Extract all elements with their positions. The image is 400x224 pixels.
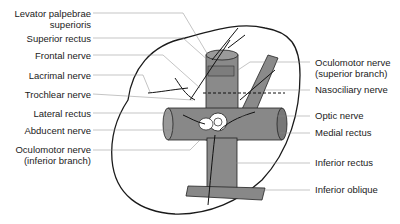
label-text: Optic nerve [315,110,364,121]
label-optic-nerve: Optic nerve [315,110,364,121]
label-superior-rectus: Superior rectus [27,33,91,44]
label-inferior-rectus: Inferior rectus [315,157,373,168]
label-nasociliary-nerve: Nasociliary nerve [315,84,388,95]
label-text: Lateral rectus [33,108,91,119]
label-line: Oculomotor nerve [315,57,391,68]
label-oculomotor-inferior-branch: Oculomotor nerve (inferior branch) [15,144,91,166]
label-line: (inferior branch) [15,155,91,166]
label-text: Superior rectus [27,33,91,44]
label-inferior-oblique: Inferior oblique [315,184,378,195]
label-text: Nasociliary nerve [315,84,388,95]
label-lateral-rectus: Lateral rectus [33,108,91,119]
label-abducent-nerve: Abducent nerve [24,125,91,136]
label-levator-palpebrae-superioris: Levator palpebrae superioris [14,8,91,30]
label-text: Frontal nerve [35,50,91,61]
label-line: (superior branch) [315,68,391,79]
label-lacrimal-nerve: Lacrimal nerve [29,70,91,81]
label-text: Medial rectus [315,127,372,138]
label-medial-rectus: Medial rectus [315,127,372,138]
label-line: superioris [14,19,91,30]
label-text: Trochlear nerve [25,89,91,100]
label-text: Lacrimal nerve [29,70,91,81]
label-text: Abducent nerve [24,125,91,136]
label-text: Inferior rectus [315,157,373,168]
label-line: Oculomotor nerve [15,144,91,155]
label-line: Levator palpebrae [14,8,91,19]
label-oculomotor-superior-branch: Oculomotor nerve (superior branch) [315,57,391,79]
label-text: Inferior oblique [315,184,378,195]
label-trochlear-nerve: Trochlear nerve [25,89,91,100]
label-frontal-nerve: Frontal nerve [35,50,91,61]
